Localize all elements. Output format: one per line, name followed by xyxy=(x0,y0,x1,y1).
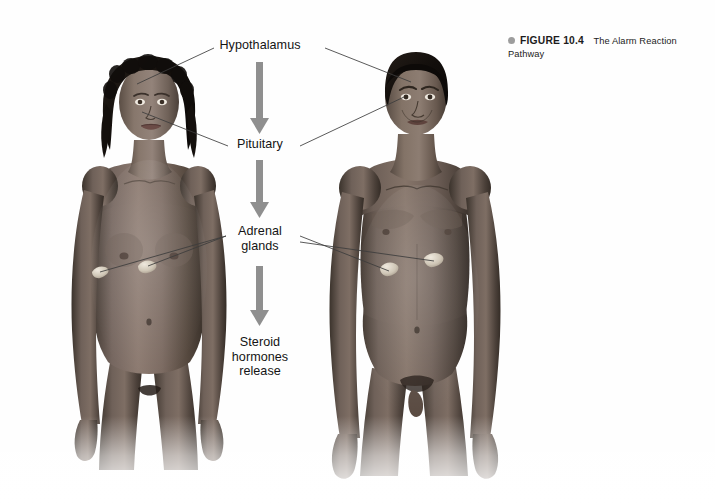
flow-arrow-2 xyxy=(250,160,269,218)
flow-arrow-3 xyxy=(250,266,269,326)
flow-label-steroid-hormones-release: Steroid hormones release xyxy=(200,335,320,379)
flow-label-hypothalamus: Hypothalamus xyxy=(150,38,370,53)
flow-label-pituitary: Pituitary xyxy=(190,137,330,152)
flow-label-adrenal-glands: Adrenal glands xyxy=(200,224,320,253)
figure-illustration: Hypothalamus Pituitary Adrenal glands St… xyxy=(0,0,715,504)
figure-number: FIGURE 10.4 xyxy=(520,35,584,46)
flow-arrow-1 xyxy=(250,62,269,134)
bullet-dot-icon xyxy=(508,37,515,44)
anatomy-scene xyxy=(0,0,715,504)
female-figure xyxy=(72,54,227,470)
male-figure xyxy=(330,52,501,479)
flow-arrows xyxy=(250,62,269,326)
bottom-fade xyxy=(0,416,715,504)
figure-caption: FIGURE 10.4 The Alarm Reaction Pathway xyxy=(508,34,708,61)
